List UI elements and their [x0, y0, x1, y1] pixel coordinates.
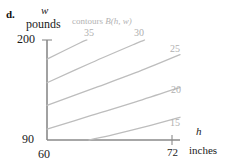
y-axis-max-tick-label: 200 [17, 33, 35, 45]
contour-curve-15 [89, 117, 180, 140]
contours-annotation: contours B(h, w) [72, 17, 132, 26]
x-axis-max-tick-label: 72 [167, 147, 178, 158]
contour-plot-figure: d. w pounds 200 90 h inches 60 72 contou… [0, 0, 227, 167]
contour-level-label-20: 20 [171, 85, 181, 95]
contours-annotation-word: contours [72, 16, 103, 26]
x-axis-units-label: inches [189, 145, 217, 156]
y-axis-variable-label: w [41, 5, 48, 16]
contour-level-label-25: 25 [170, 44, 180, 54]
x-axis-variable-label: h [196, 126, 202, 137]
contour-level-label-15: 15 [170, 118, 180, 128]
contour-curve-30 [47, 40, 145, 83]
part-label: d. [6, 9, 15, 20]
y-axis-units-label: pounds [26, 18, 61, 30]
contour-curve-25 [47, 55, 180, 106]
contour-level-label-30: 30 [134, 28, 144, 38]
x-axis-min-tick-label: 60 [38, 148, 50, 160]
contour-curve-35 [47, 40, 87, 59]
contours-function-name: B(h, w) [105, 16, 132, 26]
contour-curves [47, 40, 180, 140]
contour-level-label-35: 35 [84, 28, 94, 38]
y-axis-min-tick-label: 90 [22, 133, 34, 145]
